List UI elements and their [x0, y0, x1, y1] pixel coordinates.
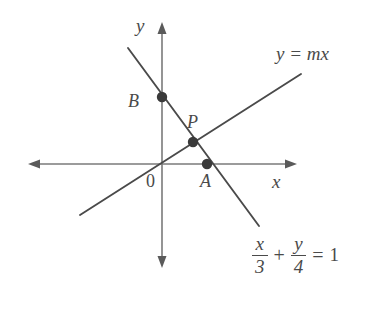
point-a-label: A: [200, 172, 211, 190]
x-axis-positive-arrowhead: [285, 160, 297, 169]
y-axis-positive-arrowhead: [158, 22, 167, 34]
fraction-denominator-3: 3: [252, 256, 268, 277]
equation-right-hand-side: 1: [330, 244, 340, 266]
point-p-label: P: [187, 113, 198, 131]
fraction-y-over-4: y 4: [291, 234, 307, 277]
y-axis-negative-arrowhead: [158, 256, 167, 268]
x-axis-negative-arrowhead: [28, 160, 40, 169]
plus-operator: +: [274, 244, 285, 267]
x-axis-label: x: [272, 172, 280, 191]
point-p-marker: [188, 137, 198, 147]
line-y-equals-mx-label: y = mx: [276, 44, 329, 63]
fraction-numerator-y: y: [291, 234, 305, 255]
equals-operator: =: [312, 244, 323, 267]
origin-label: 0: [146, 172, 155, 190]
fraction-denominator-4: 4: [291, 256, 307, 277]
y-axis-label: y: [136, 16, 144, 35]
intercept-form-equation: x 3 + y 4 = 1: [250, 234, 339, 277]
fraction-x-over-3: x 3: [252, 234, 268, 277]
point-b-label: B: [128, 92, 139, 110]
y-axis: [158, 22, 167, 268]
point-a-marker: [202, 159, 212, 169]
figure-canvas: y x 0 B P A y = mx x 3 + y 4 = 1: [0, 0, 385, 310]
fraction-numerator-x: x: [253, 234, 267, 255]
point-b-marker: [157, 92, 167, 102]
